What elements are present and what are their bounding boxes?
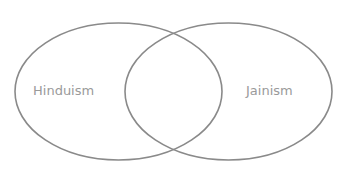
set-label-jainism: Jainism [246,83,293,99]
set-ellipse-jainism [125,23,332,160]
set-label-hinduism: Hinduism [33,83,94,99]
